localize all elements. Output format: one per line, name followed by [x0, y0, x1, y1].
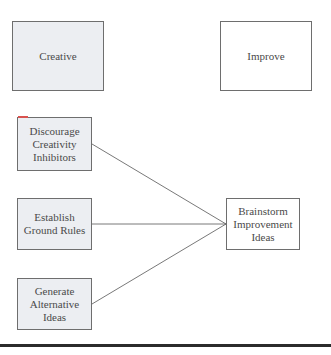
- establish-ground-rules-box: Establish Ground Rules: [17, 198, 92, 250]
- connector-generate-to-brainstorm: [92, 224, 226, 304]
- generate-alternative-ideas-label: Generate Alternative Ideas: [30, 285, 79, 324]
- creative-label: Creative: [39, 50, 76, 63]
- generate-alternative-ideas-box: Generate Alternative Ideas: [17, 278, 92, 330]
- creative-box: Creative: [12, 21, 104, 91]
- process-diagram: Creative Improve Discourage Creativity I…: [0, 0, 331, 355]
- discourage-inhibitors-box: Discourage Creativity Inhibitors: [17, 117, 92, 171]
- brainstorm-improvement-ideas-box: Brainstorm Improvement Ideas: [226, 198, 300, 250]
- improve-label: Improve: [247, 50, 284, 63]
- brainstorm-improvement-ideas-label: Brainstorm Improvement Ideas: [233, 205, 292, 244]
- discourage-inhibitors-label: Discourage Creativity Inhibitors: [29, 125, 79, 164]
- red-tick-mark: [18, 116, 28, 118]
- improve-box: Improve: [220, 21, 312, 91]
- establish-ground-rules-label: Establish Ground Rules: [24, 211, 85, 237]
- connector-discourage-to-brainstorm: [92, 144, 226, 224]
- bottom-rule-divider: [0, 344, 331, 347]
